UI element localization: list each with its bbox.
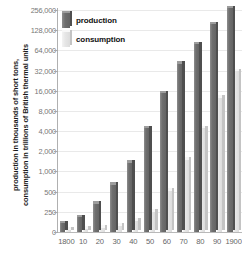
bar-production-50 xyxy=(144,128,150,232)
y-tick-mark xyxy=(54,10,58,11)
bar-production-60 xyxy=(160,93,166,232)
x-tick-label: 1900 xyxy=(226,237,242,246)
y-tick-mark xyxy=(54,212,58,213)
bar-production-10 xyxy=(77,217,83,232)
bar-production-70 xyxy=(177,64,183,232)
bar-production-1800 xyxy=(60,223,66,232)
x-tick-label: 20 xyxy=(96,237,104,246)
x-tick-label: 80 xyxy=(196,237,204,246)
y-tick-mark xyxy=(54,171,58,172)
x-tick-label: 50 xyxy=(146,237,154,246)
y-tick-mark xyxy=(54,50,58,51)
x-tick-label: 10 xyxy=(79,237,87,246)
legend-label-production: production xyxy=(76,16,117,25)
x-tick-label: 70 xyxy=(179,237,187,246)
y-tick-label: 64,000 xyxy=(35,46,56,55)
y-tick-label: 32,000 xyxy=(35,66,56,75)
y-tick-mark xyxy=(54,71,58,72)
x-tick-label: 60 xyxy=(163,237,171,246)
bar-production-20 xyxy=(93,204,99,232)
x-tick-label: 90 xyxy=(213,237,221,246)
x-tick-label: 40 xyxy=(129,237,137,246)
consumption-swatch-icon xyxy=(62,32,70,47)
y-axis-tick-labels: 02505001,0002,0004,0008,00016,00032,0006… xyxy=(20,0,56,240)
chart-container: production in thousands of short tons, c… xyxy=(0,0,242,262)
y-tick-label: 16,000 xyxy=(35,86,56,95)
y-tick-label: 128,000 xyxy=(31,26,56,35)
bar-production-1900 xyxy=(227,8,233,232)
y-tick-mark xyxy=(54,131,58,132)
legend-item-production: production xyxy=(62,13,117,28)
y-tick-mark xyxy=(54,192,58,193)
gridline xyxy=(58,10,242,11)
y-axis-line xyxy=(57,8,58,232)
y-tick-label: 256,000 xyxy=(31,6,56,15)
bar-consumption-1800 xyxy=(66,230,72,232)
bar-production-80 xyxy=(194,44,200,232)
x-axis-tick-labels: 18001020304050607080901900 xyxy=(58,233,242,247)
chart-legend: production consumption xyxy=(62,13,172,47)
y-tick-mark xyxy=(54,30,58,31)
production-swatch-icon xyxy=(62,13,70,28)
x-tick-label: 1800 xyxy=(58,237,74,246)
legend-label-consumption: consumption xyxy=(76,35,125,44)
bar-production-90 xyxy=(210,24,216,232)
bar-production-30 xyxy=(110,185,116,232)
bar-production-40 xyxy=(127,163,133,232)
x-tick-label: 30 xyxy=(113,237,121,246)
legend-item-consumption: consumption xyxy=(62,32,125,47)
y-tick-mark xyxy=(54,151,58,152)
y-tick-mark xyxy=(54,91,58,92)
y-tick-mark xyxy=(54,111,58,112)
